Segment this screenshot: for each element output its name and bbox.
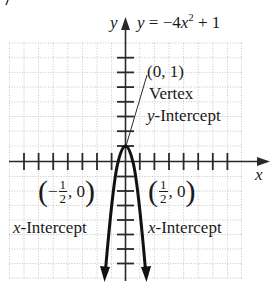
x-axis-label: x — [255, 166, 263, 183]
fraction-half: 1 2 — [59, 178, 68, 205]
x-intercept-text: -Intercept — [156, 218, 222, 237]
right-intercept-coords: ( 1 2 , 0 ) — [148, 176, 196, 206]
y-axis-arrow-icon — [121, 17, 130, 30]
equation-label: y = −4x2 + 1 — [137, 14, 220, 31]
coord-rest: , 0 — [169, 183, 186, 200]
denominator: 2 — [60, 192, 67, 205]
x-axis — [9, 153, 270, 170]
y-intercept-text: -Intercept — [155, 106, 221, 125]
x-intercept-text: -Intercept — [21, 218, 87, 237]
x-intercept-var: x — [148, 218, 156, 237]
coord-rest: , 0 — [68, 183, 85, 200]
close-paren: ) — [85, 176, 95, 206]
vertex-coords: (0, 1) — [147, 63, 184, 80]
open-paren: ( — [38, 176, 48, 206]
open-paren: ( — [148, 176, 158, 206]
minus-sign: − — [48, 183, 58, 200]
cropped-text-fragment — [6, 0, 8, 5]
right-x-intercept-label: x-Intercept — [148, 219, 222, 236]
equation-constant: + 1 — [194, 13, 221, 32]
vertex-label: Vertex — [149, 85, 193, 102]
vertex-leader-line — [126, 75, 147, 146]
numerator: 1 — [159, 178, 168, 192]
y-intercept-label: y-Intercept — [147, 107, 221, 124]
numerator: 1 — [59, 178, 68, 192]
right-curve-arrow-icon — [141, 266, 151, 282]
left-curve-arrow-icon — [100, 266, 110, 282]
equation-coefficient: = −4 — [149, 13, 181, 32]
left-x-intercept-label: x-Intercept — [13, 219, 87, 236]
denominator: 2 — [160, 192, 167, 205]
x-intercept-var: x — [13, 218, 21, 237]
close-paren: ) — [186, 176, 196, 206]
equation-lhs: y — [137, 13, 145, 32]
left-intercept-coords: ( − 1 2 , 0 ) — [38, 176, 95, 206]
y-intercept-var: y — [147, 106, 155, 125]
fraction-half: 1 2 — [159, 178, 168, 205]
graph-canvas — [0, 0, 278, 288]
y-axis — [117, 17, 134, 281]
y-axis-label: y — [110, 14, 118, 31]
